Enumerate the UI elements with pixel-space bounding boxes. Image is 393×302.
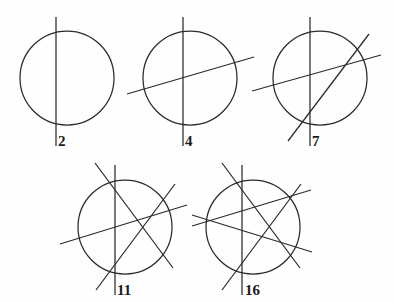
region-count-label: 4 xyxy=(185,133,193,149)
circle-outline xyxy=(143,31,237,125)
figure-canvas: 2471116 xyxy=(0,0,393,302)
region-count-label: 2 xyxy=(58,133,66,149)
circle-outline xyxy=(20,31,114,125)
region-count-label: 11 xyxy=(117,282,131,298)
circle-outline xyxy=(273,31,367,125)
circle-panel-11: 11 xyxy=(60,163,187,298)
circle-panel-4: 4 xyxy=(127,17,254,149)
shallow-rising-line xyxy=(252,55,381,91)
circle-panel-2: 2 xyxy=(20,17,114,149)
panels-group: 2471116 xyxy=(20,17,381,298)
circle-outline xyxy=(78,180,172,274)
region-count-label: 16 xyxy=(245,282,261,298)
circle-division-figure: 2471116 xyxy=(0,0,393,302)
steep-rising-line xyxy=(96,184,175,290)
steep-rising-line xyxy=(222,184,301,290)
region-count-label: 7 xyxy=(312,133,320,149)
circle-panel-7: 7 xyxy=(252,17,381,149)
steep-falling-line xyxy=(222,163,300,268)
circle-panel-16: 16 xyxy=(192,163,312,298)
steep-falling-line xyxy=(95,163,173,268)
shallow-rising-line xyxy=(60,205,187,244)
circle-outline xyxy=(206,180,300,274)
steep-rising-line xyxy=(288,34,369,141)
